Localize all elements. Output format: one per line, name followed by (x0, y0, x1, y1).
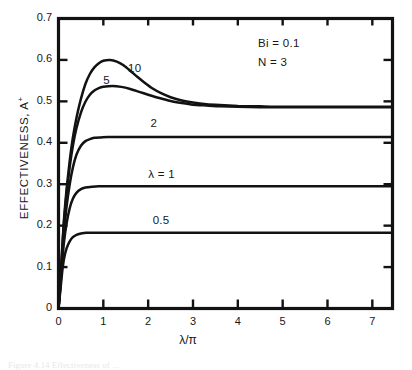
curve-label-lambda-5: 5 (103, 74, 110, 86)
x-tick-label-5: 5 (268, 315, 298, 327)
figure-caption: Figure 4.14 Effectiveness of ... (8, 360, 119, 370)
curve-lambda-0-5 (59, 233, 393, 309)
axis-tick-marks (59, 19, 393, 309)
y-axis-title-text: EFFECTIVENESS, A (18, 102, 30, 220)
n-parameter: N = 3 (258, 56, 287, 68)
x-axis-title-text: λ/π (179, 333, 197, 347)
curve-label-lambda-10: 10 (128, 62, 141, 74)
curve-lambda-10 (59, 60, 393, 309)
curve-label-lambda-2: 2 (150, 117, 157, 129)
x-axis-title: λ/π (0, 333, 412, 347)
plot-frame (59, 19, 393, 309)
x-tick-label-4: 4 (223, 315, 253, 327)
axes-frame (59, 19, 393, 309)
y-tick-label-3: 0.3 (8, 177, 52, 189)
figure-container: EFFECTIVENESS, A+ λ/π 00.10.20.30.40.50.… (0, 0, 412, 370)
y-axis-title: EFFECTIVENESS, A+ (16, 38, 36, 278)
x-tick-label-0: 0 (44, 315, 74, 327)
y-tick-label-1: 0.1 (8, 260, 52, 272)
biot-number: Bi = 0.1 (258, 37, 300, 49)
y-tick-label-7: 0.7 (8, 11, 52, 23)
y-tick-label-2: 0.2 (8, 218, 52, 230)
curve-lambda-5 (59, 86, 393, 308)
curve-label-lambda-1: λ = 1 (148, 168, 175, 180)
curve-lambda-1 (59, 186, 393, 308)
x-tick-label-7: 7 (357, 315, 387, 327)
x-tick-label-6: 6 (312, 315, 342, 327)
curve-label-lambda-0-5: 0.5 (153, 214, 170, 226)
x-tick-label-2: 2 (133, 315, 163, 327)
curve-lambda-2 (59, 137, 393, 309)
y-tick-label-5: 0.5 (8, 94, 52, 106)
y-tick-label-6: 0.6 (8, 52, 52, 64)
x-tick-label-1: 1 (88, 315, 118, 327)
x-tick-label-3: 3 (178, 315, 208, 327)
y-tick-label-4: 0.4 (8, 135, 52, 147)
y-tick-label-0: 0 (8, 301, 52, 313)
data-curves (59, 60, 393, 309)
